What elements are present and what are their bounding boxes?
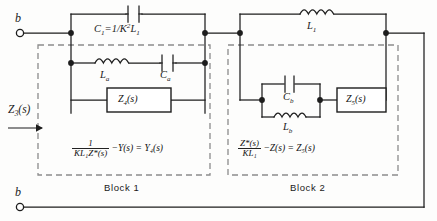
block-1-equation-rest: −Y(s) = Y₄(s)	[112, 143, 164, 153]
c1-label: C1=1/K2L1	[94, 22, 140, 37]
top-terminal-label: b	[15, 12, 21, 24]
lb-inductor-coil	[274, 113, 306, 117]
z4-impedance-box	[107, 88, 171, 112]
z4-box-label: Z4(s)	[118, 93, 138, 106]
junction-tank-left	[259, 97, 265, 103]
bottom-terminal-circle	[16, 203, 23, 210]
schematic-canvas	[0, 0, 437, 221]
block-2-equation-rest: −Z(s) = Z₅(s)	[263, 143, 315, 153]
block-2-equation: Z*(s) KL₁ −Z(s) = Z₅(s)	[238, 139, 315, 159]
z4-arg: (s)	[127, 93, 138, 104]
block-1-fraction: 1 KL₁Z*(s)	[72, 139, 109, 159]
lb-subscript: b	[289, 127, 293, 135]
block-1-fraction-numerator: 1	[72, 139, 109, 148]
block-1-caption: Block 1	[104, 182, 139, 193]
bottom-terminal-label: b	[15, 186, 21, 198]
junction-right-top	[383, 30, 389, 36]
block-2-caption: Block 2	[290, 182, 325, 193]
la-label: La	[100, 70, 109, 83]
block-2-fraction-denominator: KL₁	[238, 148, 261, 158]
c1-expression: =1/K2L1	[105, 23, 140, 34]
junction-top-left	[68, 30, 74, 36]
block-2-fraction: Z*(s) KL₁	[238, 139, 261, 159]
l1-subscript: 1	[313, 26, 317, 34]
la-subscript: a	[106, 75, 110, 83]
la-inductor-coil	[95, 59, 129, 63]
ca-label: Ca	[160, 70, 171, 83]
ca-symbol: C	[160, 69, 167, 80]
z5-box-label: Z5(s)	[346, 93, 366, 106]
block-2-fraction-numerator: Z*(s)	[238, 139, 261, 148]
junction-block1-right-top	[202, 30, 208, 36]
l1-inductor-coil	[300, 10, 334, 14]
z3-arrow	[8, 124, 43, 132]
junction-la-left	[68, 60, 74, 66]
z5-arg: (s)	[355, 93, 366, 104]
junction-block2-left-top	[237, 30, 243, 36]
ca-subscript: a	[167, 75, 171, 83]
junction-ca-right	[202, 60, 208, 66]
cb-subscript: b	[290, 97, 294, 105]
c1-symbol: C	[94, 23, 101, 34]
block-1-equation: 1 KL₁Z*(s) −Y(s) = Y₄(s)	[72, 139, 163, 159]
block-1-fraction-denominator: KL₁Z*(s)	[72, 148, 109, 158]
lb-label: Lb	[283, 122, 292, 135]
junction-tank-right	[317, 97, 323, 103]
top-terminal-circle	[16, 29, 23, 36]
z3-arg: (s)	[18, 103, 30, 115]
l1-label: L1	[307, 21, 316, 34]
cb-label: Cb	[283, 92, 294, 105]
circuit-diagram-figure: b b Z3(s) C1=1/K2L1 La Ca Z4(s) L1 Cb Lb…	[0, 0, 437, 221]
input-impedance-label: Z3(s)	[8, 104, 30, 118]
cb-symbol: C	[283, 91, 290, 102]
